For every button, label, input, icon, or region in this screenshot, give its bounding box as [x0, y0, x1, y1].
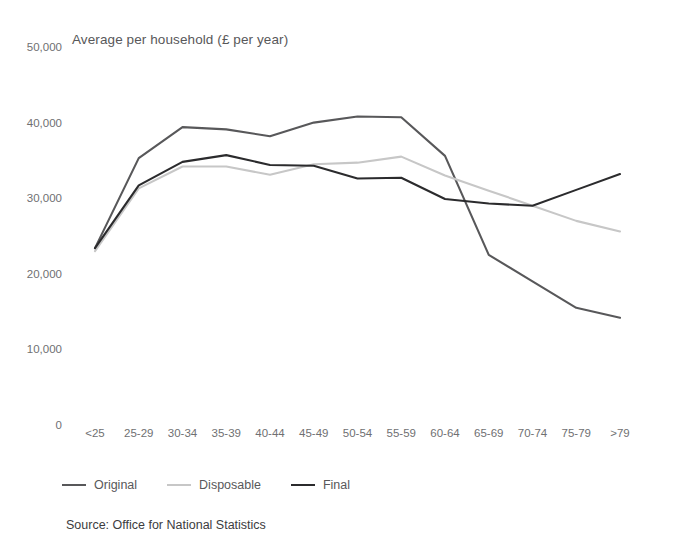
plot-area [62, 47, 662, 425]
x-axis-tick-label: 60-64 [430, 427, 459, 439]
x-axis-tick-label: 50-54 [343, 427, 372, 439]
x-axis-tick-label: 35-39 [212, 427, 241, 439]
legend-swatch-final [291, 484, 315, 486]
source-note: Source: Office for National Statistics [66, 518, 266, 532]
plot-lines [62, 47, 662, 425]
x-axis-tick-label: 70-74 [518, 427, 547, 439]
legend-item-disposable[interactable]: Disposable [167, 478, 261, 492]
x-axis-tick-label: 25-29 [124, 427, 153, 439]
chart-legend: OriginalDisposableFinal [62, 478, 350, 492]
series-line-disposable [95, 157, 620, 252]
x-axis-tick-label: 75-79 [562, 427, 591, 439]
x-axis-tick-label: 45-49 [299, 427, 328, 439]
legend-label: Original [94, 478, 137, 492]
y-axis-tick-label: 0 [4, 419, 62, 431]
x-axis-tick-label: 30-34 [168, 427, 197, 439]
legend-swatch-original [62, 484, 86, 486]
series-line-original [95, 117, 620, 318]
chart-title: Average per household (£ per year) [72, 32, 288, 47]
x-axis: <2525-2930-3435-3940-4445-4950-5455-5960… [62, 427, 662, 449]
x-axis-tick-label: 55-59 [387, 427, 416, 439]
x-axis-tick-label: <25 [85, 427, 105, 439]
legend-label: Disposable [199, 478, 261, 492]
y-axis-tick-label: 50,000 [4, 41, 62, 53]
x-axis-tick-label: 65-69 [474, 427, 503, 439]
legend-item-original[interactable]: Original [62, 478, 137, 492]
x-axis-tick-label: 40-44 [255, 427, 284, 439]
legend-swatch-disposable [167, 484, 191, 486]
y-axis-tick-label: 40,000 [4, 117, 62, 129]
x-axis-tick-label: >79 [610, 427, 630, 439]
y-axis: 010,00020,00030,00040,00050,000 [0, 0, 62, 553]
y-axis-tick-label: 30,000 [4, 192, 62, 204]
legend-item-final[interactable]: Final [291, 478, 350, 492]
series-line-final [95, 155, 620, 248]
y-axis-tick-label: 10,000 [4, 343, 62, 355]
legend-label: Final [323, 478, 350, 492]
y-axis-tick-label: 20,000 [4, 268, 62, 280]
chart-container: Average per household (£ per year) 010,0… [0, 0, 674, 553]
